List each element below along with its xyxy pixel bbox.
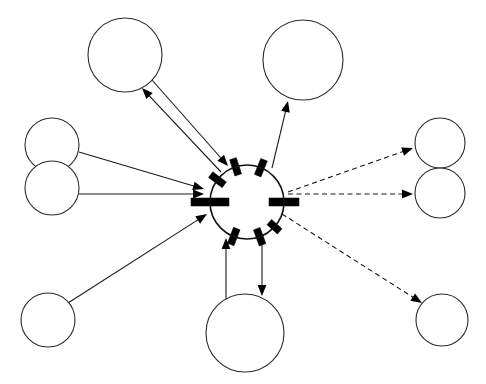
edge-bottomleft-to-hub[interactable] — [68, 214, 207, 303]
edge-hub-to-bottomright-line[interactable] — [282, 214, 414, 298]
edge-hub-to-topright-line[interactable] — [272, 110, 286, 168]
edge-hub-to-bottomright[interactable] — [282, 214, 422, 303]
edge-hub-to-topright-arrowhead — [281, 101, 290, 113]
edge-leftlower-to-hub-arrowhead — [193, 190, 204, 199]
edge-topleft-to-hub-line[interactable] — [152, 80, 222, 159]
diagram-root — [0, 0, 486, 384]
node-left-lower-shape[interactable] — [25, 161, 79, 215]
edge-leftupper-to-hub-arrowhead — [192, 182, 204, 190]
node-right-lower[interactable] — [415, 168, 465, 218]
node-bottom-left[interactable] — [21, 293, 75, 347]
edge-hub-to-rightupper-arrowhead — [401, 148, 413, 156]
node-top-right-shape[interactable] — [263, 20, 343, 100]
edge-hub-to-rightlower-arrowhead — [402, 190, 413, 199]
node-bottom-right[interactable] — [416, 294, 468, 346]
edge-hub-to-bottomcenter[interactable] — [258, 240, 267, 296]
edge-hub-to-bottomcenter-arrowhead — [258, 285, 267, 296]
edge-hub-to-topleft-line[interactable] — [148, 95, 221, 172]
edge-hub-to-bottomright-arrowhead — [410, 293, 422, 303]
edge-bottomleft-to-hub-line[interactable] — [68, 219, 199, 303]
hub-shape[interactable] — [210, 165, 284, 239]
edge-leftlower-to-hub[interactable] — [79, 190, 204, 199]
node-bottom-center-shape[interactable] — [206, 294, 284, 372]
node-right-upper[interactable] — [415, 118, 465, 168]
diagram-canvas — [0, 0, 486, 384]
edge-leftupper-to-hub[interactable] — [79, 152, 204, 190]
edge-leftupper-to-hub-line[interactable] — [79, 152, 195, 186]
node-bottom-left-shape[interactable] — [21, 293, 75, 347]
node-bottom-center[interactable] — [206, 294, 284, 372]
node-top-left-shape[interactable] — [88, 18, 162, 92]
node-left-lower[interactable] — [25, 161, 79, 215]
edge-hub-to-rightlower[interactable] — [288, 190, 413, 199]
node-right-lower-shape[interactable] — [415, 168, 465, 218]
node-top-left[interactable] — [88, 18, 162, 92]
edge-topleft-to-hub[interactable] — [152, 80, 228, 166]
hub-layer — [210, 165, 284, 239]
edge-bottomcenter-to-hub[interactable] — [222, 238, 231, 300]
edge-bottomleft-to-hub-arrowhead — [195, 214, 207, 224]
hub[interactable] — [210, 165, 284, 239]
edge-hub-to-topleft[interactable] — [142, 88, 221, 172]
node-top-right[interactable] — [263, 20, 343, 100]
edge-hub-to-rightupper[interactable] — [288, 148, 413, 192]
edge-hub-to-topright[interactable] — [272, 101, 290, 168]
node-right-upper-shape[interactable] — [415, 118, 465, 168]
edge-hub-to-rightupper-line[interactable] — [288, 151, 405, 192]
node-bottom-right-shape[interactable] — [416, 294, 468, 346]
